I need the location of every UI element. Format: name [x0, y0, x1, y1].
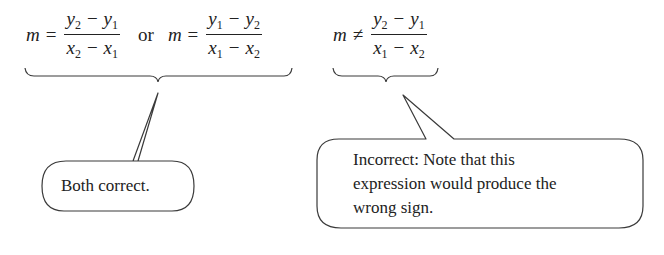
or-connector: or — [138, 25, 154, 44]
eq3-op: ≠ — [353, 25, 363, 44]
right-callout-line-1: Incorrect: Note that this — [353, 148, 556, 172]
eq2-fraction: y1−y2 x1−x2 — [206, 9, 262, 60]
eq1-fraction: y2−y1 x2−x1 — [64, 9, 120, 60]
eq2-lhs: m — [168, 25, 182, 44]
right-callout-line-3: wrong sign. — [353, 196, 556, 220]
right-callout-text: Incorrect: Note that this expression wou… — [353, 148, 556, 220]
eq2-numerator: y1−y2 — [206, 9, 262, 35]
eq1-denominator: x2−x1 — [64, 35, 120, 60]
incorrect-equation: m ≠ y2−y1 x1−x2 — [333, 9, 429, 60]
eq3-lhs: m — [333, 25, 347, 44]
right-underbrace — [333, 68, 438, 82]
eq3-fraction: y2−y1 x1−x2 — [371, 9, 427, 60]
left-callout-text: Both correct. — [61, 174, 150, 198]
left-underbrace — [25, 68, 292, 82]
right-callout-line-2: expression would produce the — [353, 172, 556, 196]
eq2-op: = — [188, 25, 199, 44]
eq1-numerator: y2−y1 — [64, 9, 120, 35]
eq2-denominator: x1−x2 — [206, 35, 262, 60]
eq1-lhs: m — [26, 25, 40, 44]
eq3-denominator: x1−x2 — [371, 35, 427, 60]
correct-equations: m = y2−y1 x2−x1 or m = y1−y2 x1−x2 — [26, 9, 264, 60]
eq1-op: = — [46, 25, 57, 44]
eq3-numerator: y2−y1 — [371, 9, 427, 35]
